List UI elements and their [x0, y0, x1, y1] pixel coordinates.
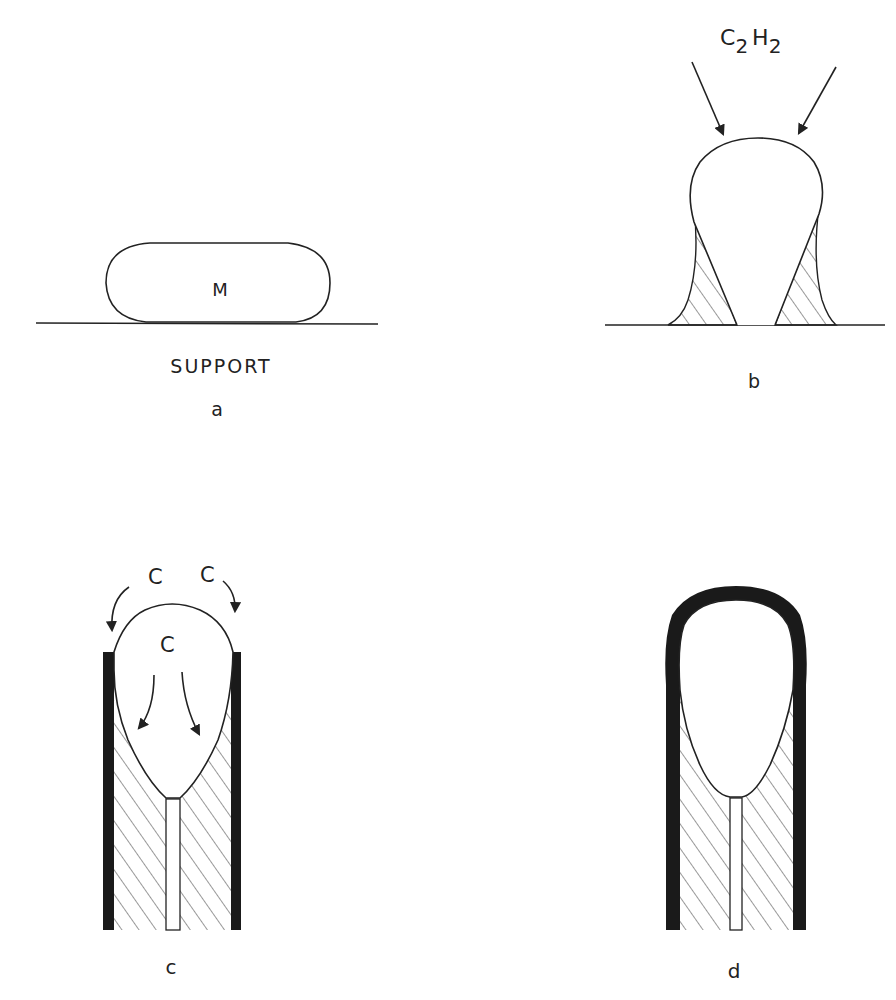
- carbon-label-inner: C: [160, 633, 175, 657]
- panel-b: C2H2 b: [605, 25, 885, 392]
- panel-label-a: a: [211, 398, 223, 420]
- arrow-icon: [692, 62, 723, 134]
- particle-label: M: [212, 279, 228, 300]
- carbon-label-right: C: [200, 563, 215, 587]
- gas-label: C2H2: [720, 25, 781, 58]
- arrow-icon: [223, 581, 235, 611]
- panel-a: M SUPPORT a: [36, 243, 378, 420]
- support-label: SUPPORT: [170, 355, 271, 377]
- panel-d: d: [665, 586, 807, 983]
- diagram-canvas: M SUPPORT a C2H2 b C C C c: [0, 0, 896, 1000]
- outer-wall-left: [103, 652, 114, 930]
- arrow-icon: [799, 67, 836, 133]
- panel-label-b: b: [748, 370, 760, 392]
- arrow-icon: [112, 587, 129, 630]
- hollow-core: [730, 798, 742, 930]
- carbon-label-left: C: [148, 565, 163, 589]
- panel-c: C C C c: [103, 563, 241, 979]
- panel-label-c: c: [166, 955, 177, 979]
- outer-wall-right: [231, 652, 241, 930]
- support-line: [36, 323, 378, 324]
- panel-label-d: d: [728, 959, 741, 983]
- hollow-core: [166, 799, 180, 930]
